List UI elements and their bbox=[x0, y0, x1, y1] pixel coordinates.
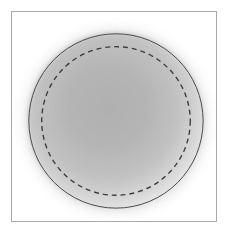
plot-frame bbox=[11, 11, 217, 222]
figure-root bbox=[0, 0, 232, 240]
plot-canvas bbox=[12, 12, 216, 221]
circle-diagram-svg bbox=[12, 12, 216, 221]
